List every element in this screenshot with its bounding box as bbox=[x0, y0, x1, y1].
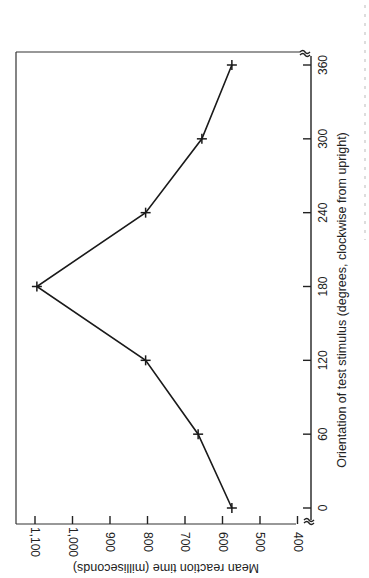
x-tick-label: 300 bbox=[316, 129, 330, 149]
y-tick-label: 800 bbox=[141, 532, 155, 552]
plus-marker-icon bbox=[227, 503, 237, 513]
y-tick-label: 400 bbox=[291, 532, 305, 552]
y-tick-label: 600 bbox=[216, 532, 230, 552]
plus-marker-icon bbox=[32, 282, 42, 292]
x-tick-label: 120 bbox=[316, 350, 330, 370]
y-tick-label: 500 bbox=[253, 532, 267, 552]
y-tick-label: 700 bbox=[178, 532, 192, 552]
reaction-time-chart: 060120180240300360 1,1001,00090080070060… bbox=[0, 0, 369, 578]
y-axis-label: Mean reaction time (milliseconds) bbox=[73, 561, 259, 575]
x-tick-label: 60 bbox=[316, 427, 330, 441]
plot-frame bbox=[16, 52, 300, 524]
x-tick-label: 180 bbox=[316, 276, 330, 296]
plus-marker-icon bbox=[141, 355, 151, 365]
x-axis: 060120180240300360 bbox=[300, 51, 330, 525]
plus-marker-icon bbox=[227, 60, 237, 70]
y-tick-label: 1,100 bbox=[28, 527, 42, 557]
y-tick-label: 900 bbox=[103, 532, 117, 552]
data-series bbox=[32, 60, 237, 513]
x-tick-label: 0 bbox=[316, 504, 330, 511]
x-axis-label: Orientation of test stimulus (degrees, c… bbox=[335, 132, 349, 468]
plus-marker-icon bbox=[193, 429, 203, 439]
x-tick-label: 360 bbox=[316, 55, 330, 75]
y-axis: 1,1001,000900800700600500400 bbox=[28, 516, 305, 557]
x-tick-label: 240 bbox=[316, 202, 330, 222]
y-tick-label: 1,000 bbox=[66, 527, 80, 557]
